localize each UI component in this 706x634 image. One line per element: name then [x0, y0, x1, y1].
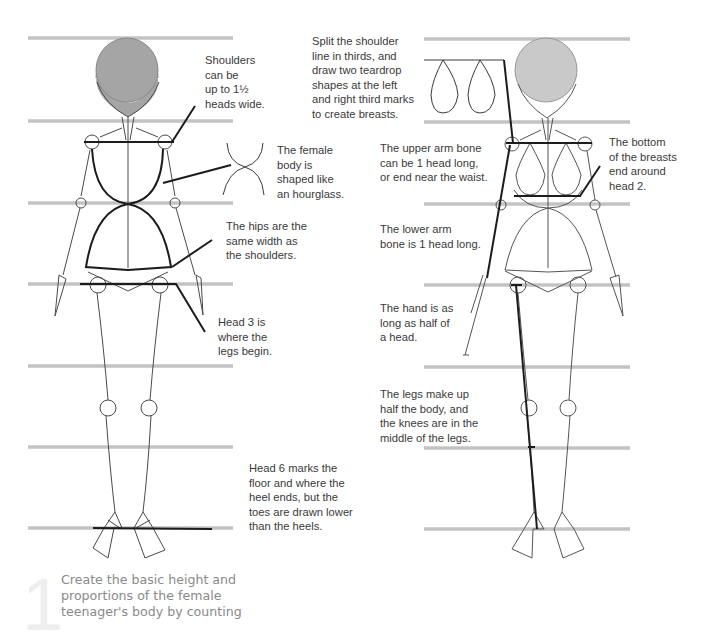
annotation-hand: The hand is as long as half of a head.	[380, 301, 453, 345]
teardrop-shapes-icon	[424, 60, 504, 113]
annotation-head3: Head 3 is where the legs begin.	[218, 315, 272, 359]
annotation-upper-arm: The upper arm bone can be 1 head long, o…	[380, 141, 488, 185]
annotation-lower-arm: The lower arm bone is 1 head long.	[380, 222, 481, 251]
annotation-legs: The legs make up half the body, and the …	[380, 387, 478, 445]
right-figure-bold-lines	[487, 60, 600, 529]
annotation-breasts-split: Split the shoulder line in thirds, and d…	[312, 34, 414, 122]
annotation-breast-bottom: The bottom of the breasts end around hea…	[609, 135, 677, 193]
annotation-head6: Head 6 marks the floor and where the hee…	[249, 461, 353, 534]
step-description: Create the basic height and proportions …	[61, 572, 242, 621]
left-figure-bold-lines	[80, 106, 231, 529]
step-number: 1	[22, 568, 63, 634]
annotation-hips: The hips are the same width as the shoul…	[226, 219, 307, 263]
annotation-hourglass: The female body is shaped like an hourgl…	[277, 143, 344, 201]
right-figure	[463, 38, 623, 558]
left-figure	[55, 38, 203, 558]
hourglass-shape-icon	[223, 143, 264, 195]
annotation-shoulders: Shoulders can be up to 1½ heads wide.	[205, 53, 265, 111]
